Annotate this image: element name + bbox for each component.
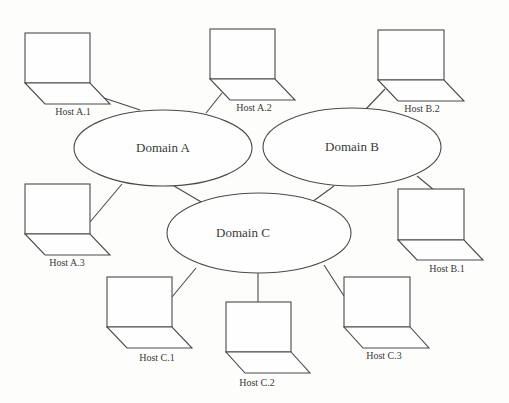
host-b2: Host B.2 xyxy=(378,30,464,114)
host-c2-label: Host C.2 xyxy=(239,377,275,388)
host-b1: Host B.1 xyxy=(398,189,483,274)
laptop-icon xyxy=(398,189,483,260)
domain-b: Domain B xyxy=(263,108,441,186)
link-host-c1-domain-c xyxy=(172,268,196,297)
host-a1-label: Host A.1 xyxy=(55,106,91,117)
domain-c: Domain C xyxy=(167,193,351,273)
link-domain-a-domain-c xyxy=(174,186,203,203)
host-b1-label: Host B.1 xyxy=(429,263,465,274)
domain-c-label: Domain C xyxy=(216,225,270,240)
link-host-c3-domain-c xyxy=(324,265,344,296)
host-a2: Host A.2 xyxy=(210,29,295,113)
domain-b-label: Domain B xyxy=(325,139,379,154)
host-c2: Host C.2 xyxy=(226,302,310,388)
laptop-icon xyxy=(344,277,429,348)
domain-a-label: Domain A xyxy=(136,140,190,155)
laptop-icon xyxy=(25,184,110,255)
host-c3-label: Host C.3 xyxy=(366,350,402,361)
domain-a: Domain A xyxy=(74,110,252,186)
host-c1-label: Host C.1 xyxy=(139,352,175,363)
laptop-icon xyxy=(226,302,310,373)
host-a1: Host A.1 xyxy=(25,33,110,117)
link-domain-b-domain-c xyxy=(312,186,334,202)
host-c3: Host C.3 xyxy=(344,277,429,361)
host-a3: Host A.3 xyxy=(25,184,110,268)
network-diagram: Domain A Domain B Domain C Host A.1 Host… xyxy=(0,0,509,403)
laptop-icon xyxy=(210,29,295,100)
laptop-icon xyxy=(378,30,464,101)
host-b2-label: Host B.2 xyxy=(404,103,440,114)
link-host-b1-domain-b xyxy=(417,176,434,190)
host-a3-label: Host A.3 xyxy=(49,257,85,268)
laptop-icon xyxy=(25,33,110,104)
link-host-a3-domain-a xyxy=(90,184,122,222)
link-host-b2-domain-b xyxy=(366,89,385,109)
host-a2-label: Host A.2 xyxy=(236,102,272,113)
host-c1: Host C.1 xyxy=(107,277,192,363)
link-host-a2-domain-a xyxy=(206,93,222,113)
